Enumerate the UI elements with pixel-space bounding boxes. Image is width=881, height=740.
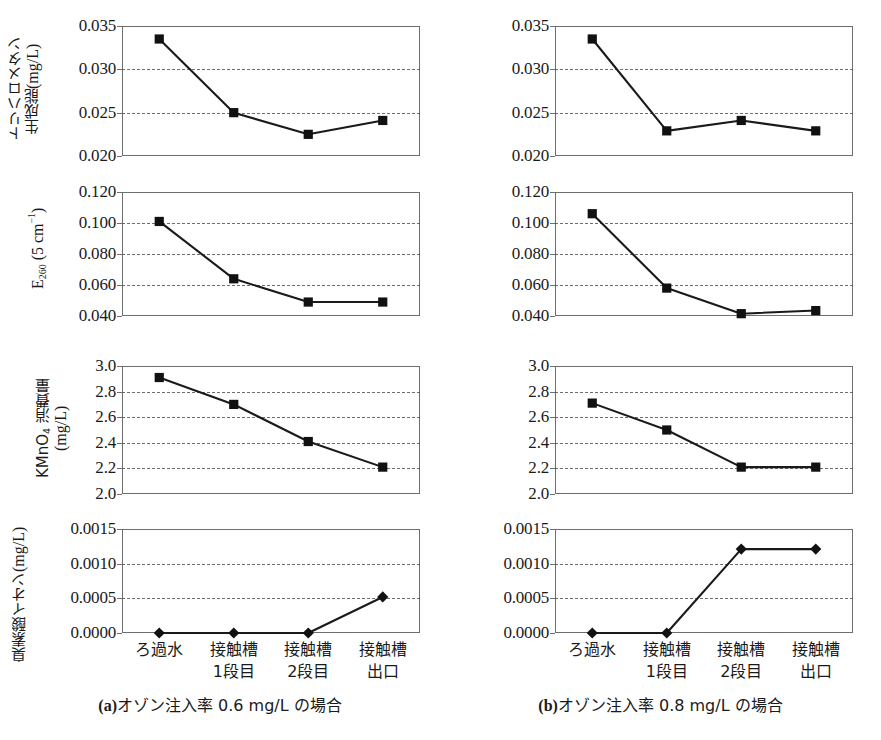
ytick-e260-a-3: 0.060 [79, 275, 122, 295]
plot-area-e260-a: 0.120 0.100 0.080 0.060 0.040 [122, 192, 420, 316]
plot-area-kmno4-b: 3.0 2.8 2.6 2.4 2.2 2.0 [555, 366, 853, 494]
x-axis-categories-b: ろ過水 接触槽 1段目 接触槽 2段目 接触槽 出口 [555, 639, 853, 682]
series-bromate-a [122, 529, 420, 633]
x-category-1: 接触槽 1段目 [630, 639, 705, 682]
ytick-bromate-a-3: 0.0000 [70, 623, 122, 643]
ytick-thm-b-1: 0.030 [512, 59, 555, 79]
ytick-e260-a-4: 0.040 [79, 306, 122, 326]
plot-area-thm-b: 0.035 0.030 0.025 0.020 [555, 26, 853, 156]
ytick-bromate-a-2: 0.0005 [70, 588, 122, 608]
ytick-bromate-b-1: 0.0010 [503, 554, 555, 574]
x-category-2: 接触槽 2段目 [704, 639, 779, 682]
ytick-bromate-a-1: 0.0010 [70, 554, 122, 574]
ytick-e260-b-2: 0.080 [512, 244, 555, 264]
series-e260-b [555, 192, 853, 316]
plot-area-thm-a: 0.035 0.030 0.025 0.020 [122, 26, 420, 156]
plot-area-kmno4-a: 3.0 2.8 2.6 2.4 2.2 2.0 [122, 366, 420, 494]
series-kmno4-a [122, 366, 420, 494]
ytick-thm-b-0: 0.035 [512, 16, 555, 36]
ytick-e260-b-3: 0.060 [512, 275, 555, 295]
series-thm-b [555, 26, 853, 156]
ytick-bromate-a-0: 0.0015 [70, 519, 122, 539]
series-kmno4-b [555, 366, 853, 494]
ytick-thm-a-2: 0.025 [79, 103, 122, 123]
series-e260-a [122, 192, 420, 316]
panel-caption-b-text: オゾン注入率 0.8 mg/L の場合 [558, 696, 783, 715]
ytick-thm-a-3: 0.020 [79, 146, 122, 166]
ytick-thm-a-0: 0.035 [79, 16, 122, 36]
x-category-3: 接触槽 出口 [346, 639, 421, 682]
plot-area-bromate-b: 0.0015 0.0010 0.0005 0.0000 [555, 529, 853, 633]
x-category-0: ろ過水 [555, 639, 630, 682]
figure-root: トリハロメタン生成能(mg/L) 0.035 0.030 0.025 0.020… [0, 0, 881, 740]
x-category-0: ろ過水 [122, 639, 197, 682]
ytick-thm-b-3: 0.020 [512, 146, 555, 166]
ytick-bromate-b-3: 0.0000 [503, 623, 555, 643]
ytick-e260-b-1: 0.100 [512, 213, 555, 233]
ytick-e260-a-2: 0.080 [79, 244, 122, 264]
panel-caption-b-tag: (b) [538, 697, 558, 714]
panel-caption-a-tag: (a) [98, 697, 117, 714]
x-category-1: 接触槽 1段目 [197, 639, 272, 682]
ytick-thm-b-2: 0.025 [512, 103, 555, 123]
x-category-2: 接触槽 2段目 [271, 639, 346, 682]
ytick-e260-a-1: 0.100 [79, 213, 122, 233]
ytick-bromate-b-2: 0.0005 [503, 588, 555, 608]
y-axis-title-kmno4-a: KMnO4 消費量(mg/L) [34, 358, 70, 498]
y-axis-title-thm-a: トリハロメタン生成能(mg/L) [6, 14, 42, 164]
ytick-e260-b-4: 0.040 [512, 306, 555, 326]
series-bromate-b [555, 529, 853, 633]
ytick-thm-a-1: 0.030 [79, 59, 122, 79]
y-axis-title-e260-a: E260 (5 cm−1) [26, 184, 48, 312]
ytick-bromate-b-0: 0.0015 [503, 519, 555, 539]
panel-caption-a: (a)オゾン注入率 0.6 mg/L の場合 [0, 692, 440, 716]
ytick-e260-b-0: 0.120 [512, 182, 555, 202]
y-axis-title-bromate-a: 臭素酸イオン(mg/L) [10, 509, 28, 679]
panel-a: トリハロメタン生成能(mg/L) 0.035 0.030 0.025 0.020… [0, 0, 440, 700]
plot-area-e260-b: 0.120 0.100 0.080 0.060 0.040 [555, 192, 853, 316]
x-category-3: 接触槽 出口 [779, 639, 854, 682]
series-thm-a [122, 26, 420, 156]
plot-area-bromate-a: 0.0015 0.0010 0.0005 0.0000 [122, 529, 420, 633]
panel-caption-b: (b)オゾン注入率 0.8 mg/L の場合 [440, 692, 881, 716]
panel-b: 0.035 0.030 0.025 0.020 0.120 0.100 [440, 0, 881, 700]
ytick-e260-a-0: 0.120 [79, 182, 122, 202]
x-axis-categories-a: ろ過水 接触槽 1段目 接触槽 2段目 接触槽 出口 [122, 639, 420, 682]
panel-caption-a-text: オゾン注入率 0.6 mg/L の場合 [117, 696, 342, 715]
cropped-caption-strip [0, 726, 881, 740]
